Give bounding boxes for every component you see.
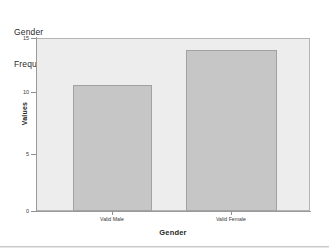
- y-axis-line: [36, 37, 37, 212]
- chart-page: Gender Frequency 15 10 5 0 Valid Male Va…: [0, 0, 329, 250]
- y-axis-title: Values: [21, 84, 28, 144]
- x-tick-mark-valid-male: [112, 211, 113, 215]
- bar-valid-female: [186, 50, 277, 211]
- x-axis-title: Gender: [36, 228, 310, 237]
- x-tick-label-valid-male: Valid Male: [77, 216, 147, 223]
- x-axis-line: [36, 211, 311, 212]
- x-tick-label-valid-female: Valid Female: [196, 216, 266, 223]
- y-tick-label-0: 0: [15, 208, 29, 214]
- x-tick-mark-valid-female: [231, 211, 232, 215]
- footer-divider-shadow: [0, 247, 329, 248]
- y-tick-label-15: 15: [15, 35, 29, 41]
- bar-valid-male: [73, 85, 152, 211]
- y-tick-label-5: 5: [15, 151, 29, 157]
